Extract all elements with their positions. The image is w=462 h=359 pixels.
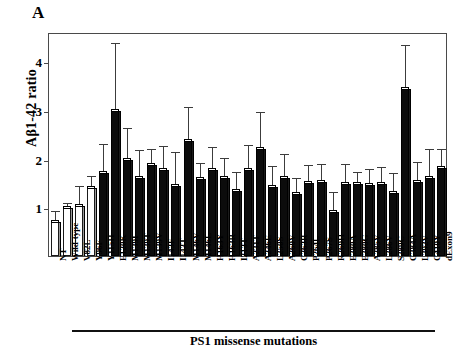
bar-top-face [365,183,373,186]
error-bar-cap [256,112,265,113]
bar-top-face [220,176,228,179]
bar-group[interactable] [340,32,351,256]
panel-label: A [32,4,44,21]
bar-group[interactable] [183,32,194,256]
bar-group[interactable] [195,32,206,256]
bar-group[interactable] [170,32,181,256]
x-axis-title: PS1 missense mutations [72,334,435,349]
error-bar-cap [232,172,241,173]
figure-panel-a: A Aβ1-42 ratio 1234 NTWild-typeV82LY96FY… [0,0,462,359]
error-bar-cap [123,128,132,129]
error-bar [115,43,116,112]
x-tick-label: L392V [420,235,430,261]
error-bar [188,107,189,142]
bar-group[interactable] [352,32,363,256]
error-bar-cap [159,146,168,147]
bar-top-face [280,176,288,179]
x-tick-label: I143T [178,238,188,261]
x-tick-label: Wild-type [70,223,80,261]
error-bar [429,149,430,179]
bar-top-face [401,87,409,90]
error-bar-cap [51,211,60,212]
bar-top-face [159,168,167,171]
bar-top-face [208,168,216,171]
bar-group[interactable] [328,32,339,256]
x-tick-label: A260V [287,235,297,262]
x-tick-label: V82L [82,239,92,261]
error-bar-cap [147,149,156,150]
bar-group[interactable] [364,32,375,256]
bar-group[interactable] [436,32,447,256]
bar-group[interactable] [424,32,435,256]
bar-top-face [244,168,252,171]
bar-group[interactable] [376,32,387,256]
x-tick-label: C410Y [432,235,442,262]
bar-group[interactable] [412,32,423,256]
error-bar-cap [208,147,217,148]
bar-group[interactable] [303,32,314,256]
bar-group[interactable] [122,32,133,256]
error-bar-cap [244,145,253,146]
bar-top-face [99,171,107,174]
bar-group[interactable] [291,32,302,256]
bar-group[interactable] [86,32,97,256]
x-tick-label: P267S [324,237,334,261]
x-axis-tick-labels: NTWild-typeV82LY96FY115HE120KM139IM139TM… [48,259,447,325]
x-tick-label: G384A [408,234,418,261]
bar-group[interactable] [146,32,157,256]
x-tick-label: H163R [227,234,237,261]
bar-group[interactable] [243,32,254,256]
bar-top-face [51,220,59,223]
bar-group[interactable] [279,32,290,256]
bar-top-face [184,139,192,142]
error-bar-cap [184,107,193,108]
x-tick-label: P264L [311,236,321,261]
bar-group[interactable] [207,32,218,256]
error-bar [405,45,406,90]
error-bar-cap [365,169,374,170]
bar-top-face [437,166,445,169]
error-bar-cap [341,164,350,165]
x-tick-label: A231T [251,235,261,261]
bar-top-face [292,192,300,195]
error-bar [260,112,261,150]
bar-top-face [341,182,349,185]
bar-top-face [317,180,325,183]
bar-group[interactable] [316,32,327,256]
error-bar-cap [292,178,301,179]
x-tick-label: M146V [191,233,201,262]
error-bar-cap [437,149,446,150]
x-tick-label: I143F [166,239,176,262]
bar-top-face [377,182,385,185]
error-bar-cap [75,186,84,187]
error-bar-cap [377,167,386,168]
bar-group[interactable] [255,32,266,256]
x-tick-label: A246E [263,235,273,261]
bar-group[interactable] [50,32,61,256]
bar[interactable] [401,88,409,256]
error-bar-cap [401,45,410,46]
bar-top-face [123,158,131,161]
bar-top-face [413,180,421,183]
y-tick-label: 3 [36,104,43,120]
bar-top-face [135,176,143,179]
x-tick-label: Y115H [106,234,116,261]
error-bar-cap [413,162,422,163]
bar-group[interactable] [110,32,121,256]
x-tick-label: E280G [360,234,370,261]
bar-group[interactable] [134,32,145,256]
bar-group[interactable] [231,32,242,256]
error-bar [175,152,176,187]
error-bar-cap [87,176,96,177]
bar-group[interactable] [219,32,230,256]
error-bar-cap [196,163,205,164]
bar-group[interactable] [98,32,109,256]
bar-group[interactable] [400,32,411,256]
error-bar-cap [63,203,72,204]
error-bar [127,128,128,160]
bar-group[interactable] [388,32,399,256]
bar-group[interactable] [267,32,278,256]
x-tick-label: dExon9 [444,231,454,261]
x-tick-label: A285V [372,235,382,262]
bar-group[interactable] [158,32,169,256]
